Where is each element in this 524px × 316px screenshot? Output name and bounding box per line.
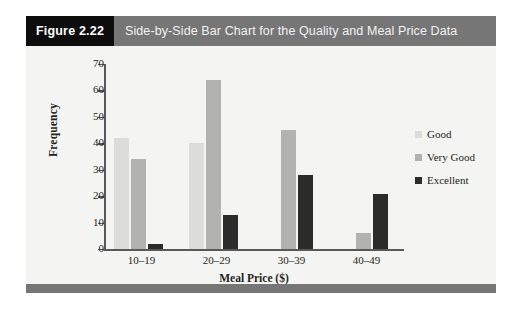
bar-group [339, 64, 388, 249]
x-axis-category-label: 10–19 [107, 254, 177, 266]
bar-excellent[interactable] [298, 175, 313, 249]
chart-plot-area: 010203040506070 Frequency 10–1920–2930–3… [26, 46, 496, 284]
bar-excellent[interactable] [373, 194, 388, 250]
x-axis-category-label: 30–39 [257, 254, 327, 266]
y-axis-tick-label: 10 [78, 216, 104, 228]
figure-title-box: Side-by-Side Bar Chart for the Quality a… [114, 16, 496, 46]
y-axis-title: Frequency [47, 70, 59, 190]
bar-very-good[interactable] [131, 159, 146, 249]
y-axis-tick-label: 20 [78, 189, 104, 201]
bar-very-good[interactable] [281, 130, 296, 249]
bar-group [114, 64, 163, 249]
x-axis-line [104, 249, 404, 251]
y-axis-tick-label: 50 [78, 110, 104, 122]
bar-group [189, 64, 238, 249]
figure-number-box: Figure 2.22 [26, 16, 114, 46]
bar-good[interactable] [114, 138, 129, 249]
legend-swatch-icon [415, 131, 422, 138]
legend-item[interactable]: Good [415, 128, 495, 140]
bar-excellent[interactable] [148, 244, 163, 249]
y-axis-tick-label: 0 [78, 242, 104, 254]
figure-number-label: Figure 2.22 [36, 24, 104, 38]
bars-layer [104, 64, 404, 249]
legend-swatch-icon [415, 154, 422, 161]
figure-container: Figure 2.22 Side-by-Side Bar Chart for t… [0, 0, 524, 316]
figure-title-label: Side-by-Side Bar Chart for the Quality a… [125, 24, 457, 38]
bar-good[interactable] [189, 143, 204, 249]
y-axis-tick-label: 40 [78, 136, 104, 148]
legend-swatch-icon [415, 177, 422, 184]
x-axis-category-label: 20–29 [182, 254, 252, 266]
chart-legend: GoodVery GoodExcellent [415, 128, 495, 197]
legend-item[interactable]: Excellent [415, 174, 495, 186]
y-axis-tick-label: 30 [78, 163, 104, 175]
legend-item[interactable]: Very Good [415, 151, 495, 163]
legend-item-label: Good [427, 128, 451, 140]
figure-header: Figure 2.22 Side-by-Side Bar Chart for t… [26, 16, 496, 46]
legend-item-label: Excellent [427, 174, 469, 186]
y-axis-tick-label: 70 [78, 57, 104, 69]
bar-group [264, 64, 313, 249]
bar-very-good[interactable] [206, 80, 221, 249]
y-axis-tick-label: 60 [78, 83, 104, 95]
legend-item-label: Very Good [427, 151, 475, 163]
bar-very-good[interactable] [356, 233, 371, 249]
x-axis-title: Meal Price ($) [104, 272, 404, 284]
x-axis-category-label: 40–49 [332, 254, 402, 266]
figure-footer-rule [26, 284, 496, 293]
bar-excellent[interactable] [223, 215, 238, 249]
